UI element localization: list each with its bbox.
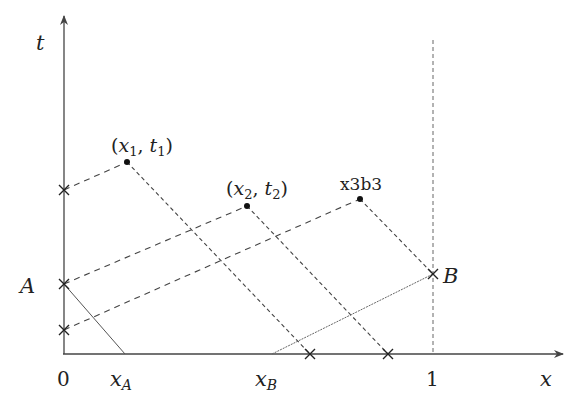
label-p2: (x2, t2) <box>226 177 288 202</box>
cross-marker-icon <box>59 185 438 359</box>
one-label: 1 <box>426 367 439 391</box>
label-p1: (x1, t1) <box>111 134 173 159</box>
label-p3: x3b3 <box>340 174 382 194</box>
label-A: A <box>18 274 35 298</box>
dashed-p3-right <box>360 199 433 274</box>
t-axis-label: t <box>36 31 45 55</box>
label-B: B <box>442 264 458 288</box>
origin-label: 0 <box>57 367 70 391</box>
characteristics-diagram: t x 0 1 A B xA xB (x1, t1) (x2, t2) x3b3 <box>0 0 578 402</box>
point-p3 <box>357 196 363 202</box>
dashed-p2-right <box>247 206 388 354</box>
label-xB: xB <box>255 367 277 393</box>
line-A-to-xA <box>64 284 125 354</box>
dashed-p2-left <box>64 206 247 284</box>
point-p2 <box>244 203 250 209</box>
x-axis-label: x <box>540 367 552 391</box>
point-p1 <box>124 159 130 165</box>
line-xB-to-B <box>272 274 433 354</box>
dashed-p1-left <box>64 162 127 190</box>
label-xA: xA <box>110 367 132 393</box>
